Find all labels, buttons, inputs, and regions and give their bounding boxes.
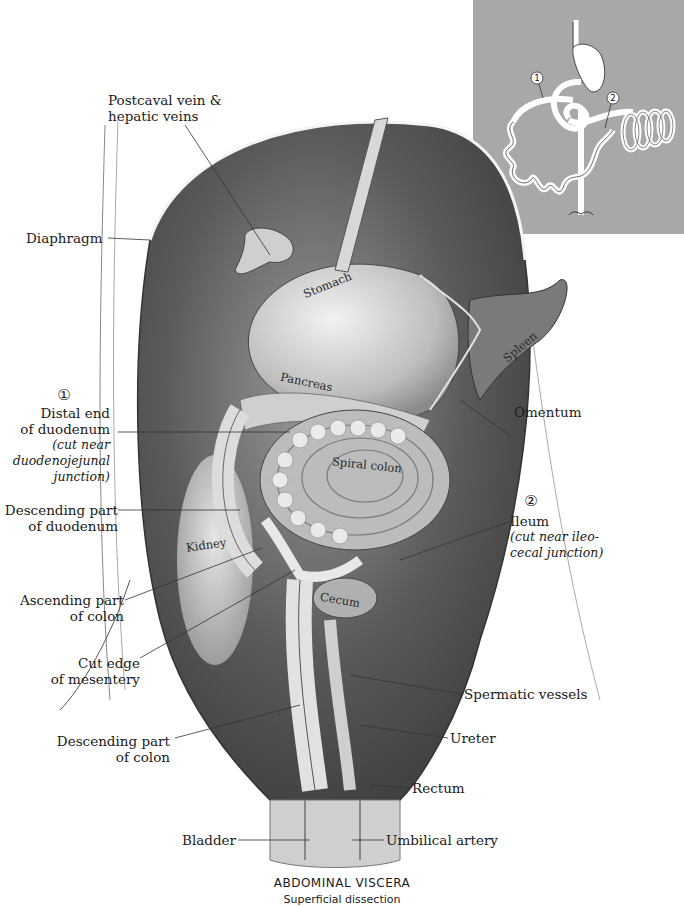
label-umbilical-artery: Umbilical artery xyxy=(386,832,498,848)
marker-2: ② xyxy=(522,492,540,510)
figure-title: ABDOMINAL VISCERA xyxy=(0,876,684,890)
label-bladder: Bladder xyxy=(182,832,236,848)
figure-subtitle: Superficial dissection xyxy=(0,893,684,906)
label-postcaval-vein: Postcaval vein & hepatic veins xyxy=(108,92,222,124)
label-spermatic-vessels: Spermatic vessels xyxy=(464,686,587,702)
label-ureter: Ureter xyxy=(450,730,496,746)
label-descending-duodenum: Descending part of duodenum xyxy=(5,502,118,534)
label-omentum: Omentum xyxy=(514,404,581,420)
label-distal-duodenum: Distal end of duodenum (cut near duodeno… xyxy=(13,405,110,485)
label-diaphragm: Diaphragm xyxy=(26,230,102,246)
label-ascending-colon: Ascending part of colon xyxy=(20,592,124,624)
marker-1: ① xyxy=(55,386,73,404)
label-cut-mesentery: Cut edge of mesentery xyxy=(51,655,140,687)
label-ileum: Ileum (cut near ileo- cecal junction) xyxy=(510,513,603,561)
label-rectum: Rectum xyxy=(412,780,465,796)
label-descending-colon: Descending part of colon xyxy=(57,733,170,765)
